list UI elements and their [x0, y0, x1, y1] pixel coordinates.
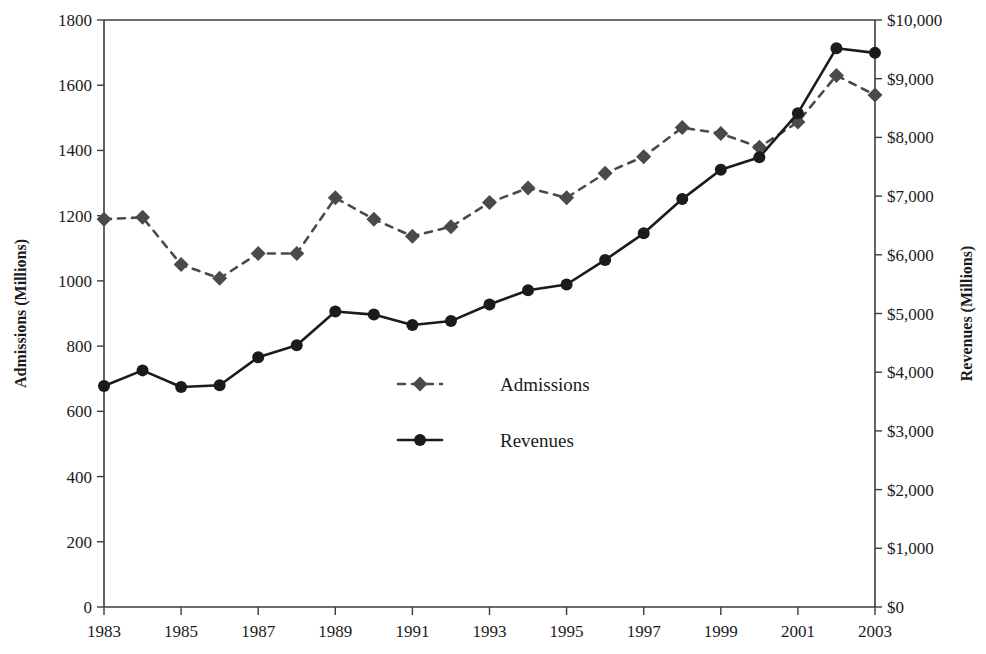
data-point-revenues: [753, 151, 765, 163]
data-point-admissions: [482, 195, 497, 210]
x-axis-tick-label: 2001: [781, 622, 815, 641]
data-point-revenues: [214, 379, 226, 391]
right-axis-tick-label: $5,000: [887, 305, 934, 324]
right-axis-tick-label: $9,000: [887, 70, 934, 89]
data-point-revenues: [830, 42, 842, 54]
legend-marker-revenues: [414, 434, 426, 446]
x-axis-tick-label: 1995: [550, 622, 584, 641]
legend-marker-admissions: [413, 377, 428, 392]
x-axis-tick-label: 1985: [164, 622, 198, 641]
legend-label-revenues: Revenues: [500, 430, 574, 451]
left-axis-tick-label: 1600: [58, 76, 92, 95]
right-axis-tick-label: $2,000: [887, 481, 934, 500]
data-point-revenues: [329, 306, 341, 318]
data-point-revenues: [445, 315, 457, 327]
left-axis-tick-label: 600: [67, 402, 93, 421]
left-axis-tick-label: 0: [84, 598, 93, 617]
data-point-revenues: [252, 351, 264, 363]
data-point-admissions: [97, 212, 112, 227]
data-point-admissions: [868, 88, 883, 103]
data-point-admissions: [212, 271, 227, 286]
data-point-revenues: [676, 193, 688, 205]
data-point-revenues: [137, 364, 149, 376]
legend-item-admissions[interactable]: Admissions: [398, 374, 590, 395]
data-point-admissions: [521, 180, 536, 195]
left-axis-tick-label: 800: [67, 337, 93, 356]
left-axis-tick-label: 1800: [58, 11, 92, 30]
series-line-admissions: [104, 75, 875, 278]
right-axis-tick-label: $10,000: [887, 11, 942, 30]
data-point-admissions: [443, 219, 458, 234]
data-point-admissions: [598, 166, 613, 181]
right-axis-tick-label: $1,000: [887, 539, 934, 558]
x-axis-tick-label: 1989: [318, 622, 352, 641]
data-point-revenues: [406, 319, 418, 331]
data-point-admissions: [328, 190, 343, 205]
x-axis-tick-label: 2003: [858, 622, 892, 641]
x-axis-tick-label: 1987: [241, 622, 276, 641]
dual-axis-line-chart: 180016001400120010008006004002000$10,000…: [0, 0, 986, 654]
series-admissions: [97, 68, 883, 286]
left-axis-tick-label: 400: [67, 468, 93, 487]
right-axis-tick-label: $3,000: [887, 422, 934, 441]
data-point-revenues: [599, 254, 611, 266]
data-point-revenues: [522, 284, 534, 296]
data-point-revenues: [715, 164, 727, 176]
data-point-revenues: [561, 279, 573, 291]
left-axis-title: Admissions (Millions): [12, 239, 30, 388]
data-point-admissions: [174, 257, 189, 272]
x-axis-tick-label: 1999: [704, 622, 738, 641]
data-point-revenues: [792, 107, 804, 119]
right-axis-tick-label: $7,000: [887, 187, 934, 206]
data-point-revenues: [98, 380, 110, 392]
data-point-revenues: [869, 47, 881, 59]
data-point-admissions: [559, 190, 574, 205]
left-axis-tick-label: 1000: [58, 272, 92, 291]
series-line-revenues: [104, 48, 875, 387]
x-axis-tick-label: 1983: [87, 622, 121, 641]
data-point-revenues: [484, 298, 496, 310]
data-point-admissions: [251, 246, 266, 261]
chart-container: 180016001400120010008006004002000$10,000…: [0, 0, 986, 654]
data-point-admissions: [366, 212, 381, 227]
x-axis-tick-label: 1997: [627, 622, 662, 641]
data-point-revenues: [368, 309, 380, 321]
right-axis-title: Revenues (Millions): [958, 246, 976, 382]
right-axis-tick-label: $4,000: [887, 363, 934, 382]
data-point-revenues: [638, 227, 650, 239]
data-point-admissions: [289, 246, 304, 261]
legend-label-admissions: Admissions: [500, 374, 590, 395]
data-point-revenues: [175, 381, 187, 393]
right-axis-tick-label: $8,000: [887, 128, 934, 147]
right-axis-tick-label: $6,000: [887, 246, 934, 265]
left-axis-tick-label: 200: [67, 533, 93, 552]
x-axis-tick-label: 1991: [395, 622, 429, 641]
data-point-admissions: [636, 149, 651, 164]
data-point-revenues: [291, 339, 303, 351]
left-axis-tick-label: 1200: [58, 207, 92, 226]
legend-item-revenues[interactable]: Revenues: [398, 430, 574, 451]
data-point-admissions: [713, 126, 728, 141]
right-axis-tick-label: $0: [887, 598, 904, 617]
series-revenues: [98, 42, 881, 393]
data-point-admissions: [405, 229, 420, 244]
x-axis-tick-label: 1993: [473, 622, 507, 641]
left-axis-tick-label: 1400: [58, 141, 92, 160]
